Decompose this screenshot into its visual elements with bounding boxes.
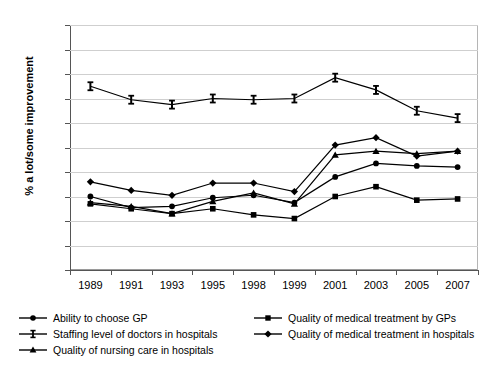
gridline xyxy=(70,221,478,222)
y-tick-mark xyxy=(65,50,70,51)
circle-marker-icon xyxy=(18,312,48,324)
diamond-marker-icon xyxy=(253,328,283,340)
chart-container: % a lot/some improvement 010203040506070… xyxy=(0,0,497,365)
y-tick-mark xyxy=(65,221,70,222)
gridline xyxy=(70,197,478,198)
y-axis-title: % a lot/some improvement xyxy=(23,1,35,251)
legend-item-ability-to-choose-gp[interactable]: Ability to choose GP xyxy=(18,312,148,324)
x-tick-mark xyxy=(315,270,316,275)
x-tick-mark xyxy=(396,270,397,275)
y-tick-mark xyxy=(65,74,70,75)
x-tick-mark xyxy=(478,270,479,275)
legend-label: Ability to choose GP xyxy=(53,312,148,324)
gridline xyxy=(70,148,478,149)
legend-item-staffing-level-of-doctors[interactable]: Staffing level of doctors in hospitals xyxy=(18,328,217,340)
x-tick-mark xyxy=(437,270,438,275)
y-tick-mark xyxy=(65,25,70,26)
x-tick-label: 2007 xyxy=(428,279,488,291)
y-tick-mark xyxy=(65,172,70,173)
x-tick-mark xyxy=(111,270,112,275)
legend-item-quality-of-medical-treatment-in-hospitals[interactable]: Quality of medical treatment in hospital… xyxy=(253,328,474,340)
y-tick-mark xyxy=(65,99,70,100)
x-tick-mark xyxy=(152,270,153,275)
legend-item-quality-of-medical-treatment-by-gps[interactable]: Quality of medical treatment by GPs xyxy=(253,312,456,324)
legend-label: Quality of nursing care in hospitals xyxy=(53,344,214,356)
chart-legend: Ability to choose GP Staffing level of d… xyxy=(0,306,497,365)
x-tick-mark xyxy=(274,270,275,275)
legend-label: Quality of medical treatment by GPs xyxy=(288,312,456,324)
x-tick-mark xyxy=(192,270,193,275)
triangle-marker-icon xyxy=(18,344,48,356)
gridline xyxy=(70,123,478,124)
gridline xyxy=(70,246,478,247)
y-tick-mark xyxy=(65,246,70,247)
legend-item-quality-of-nursing-care[interactable]: Quality of nursing care in hospitals xyxy=(18,344,214,356)
x-tick-mark xyxy=(70,270,71,275)
y-tick-mark xyxy=(65,123,70,124)
x-tick-mark xyxy=(233,270,234,275)
x-tick-mark xyxy=(356,270,357,275)
y-tick-mark xyxy=(65,197,70,198)
gridline xyxy=(70,74,478,75)
legend-label: Quality of medical treatment in hospital… xyxy=(288,328,474,340)
gridline xyxy=(70,172,478,173)
gridline xyxy=(70,99,478,100)
gridline xyxy=(70,50,478,51)
legend-label: Staffing level of doctors in hospitals xyxy=(53,328,217,340)
ibar-marker-icon xyxy=(18,328,48,340)
y-tick-mark xyxy=(65,148,70,149)
square-marker-icon xyxy=(253,312,283,324)
gridline xyxy=(70,25,478,26)
